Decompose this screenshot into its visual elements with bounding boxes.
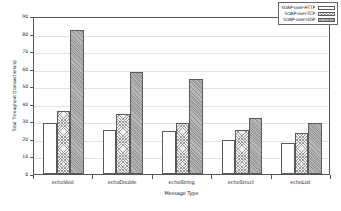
bar <box>57 111 71 174</box>
x-axis-title: Message Type <box>33 190 330 196</box>
y-tick-label: 50 <box>6 85 28 90</box>
bar <box>235 130 249 174</box>
x-tick-mark <box>152 175 153 179</box>
legend-label: SOAP-over-UDP <box>283 17 315 22</box>
bar <box>162 131 176 174</box>
x-tick-mark <box>271 175 272 179</box>
legend-label: SOAP-over-TCP <box>285 11 315 16</box>
y-axis-title-container: Total Throughput (transactions/s) <box>4 17 16 175</box>
legend-swatch <box>318 6 335 10</box>
bar <box>222 140 236 174</box>
x-tick-label: echoDouble <box>108 179 137 185</box>
bar <box>43 123 57 174</box>
y-tick-label: 40 <box>6 102 28 107</box>
x-tick-mark <box>211 175 212 179</box>
x-tick-label: echoString <box>169 179 195 185</box>
bar <box>281 143 295 174</box>
plot-area <box>33 17 330 175</box>
bar <box>295 133 309 174</box>
y-tick-label: 60 <box>6 67 28 72</box>
legend-swatch <box>318 12 335 16</box>
x-tick-label: echoList <box>290 179 310 185</box>
bar <box>130 72 144 174</box>
bar <box>70 30 84 174</box>
legend-swatch <box>318 18 335 22</box>
bar <box>116 114 130 174</box>
y-tick-label: 10 <box>6 155 28 160</box>
bar <box>189 79 203 174</box>
legend: SOAP-over-HTTPSOAP-over-TCPSOAP-over-UDP <box>278 2 338 25</box>
x-tick-label: echoVoid <box>52 179 74 185</box>
y-tick-label: 70 <box>6 50 28 55</box>
bar <box>176 123 190 174</box>
y-tick-label: 0 <box>6 173 28 178</box>
bar <box>308 123 322 174</box>
y-tick-label: 80 <box>6 32 28 37</box>
x-tick-mark <box>92 175 93 179</box>
y-tick-label: 30 <box>6 120 28 125</box>
bar <box>249 118 263 174</box>
y-tick-label: 90 <box>6 15 28 20</box>
x-tick-mark <box>330 175 331 179</box>
x-tick-mark <box>33 175 34 179</box>
y-tick-label: 20 <box>6 138 28 143</box>
legend-label: SOAP-over-HTTP <box>281 5 315 10</box>
legend-item: SOAP-over-UDP <box>281 17 335 23</box>
bar <box>103 130 117 174</box>
x-tick-label: echoStruct <box>228 179 254 185</box>
bar-chart-figure: Total Throughput (transactions/s) 010203… <box>0 0 341 211</box>
